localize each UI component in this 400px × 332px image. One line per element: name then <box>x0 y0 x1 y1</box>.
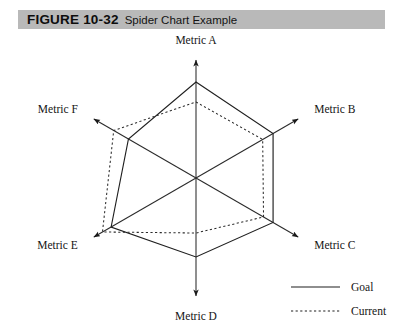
figure-title-label: Spider Chart Example <box>125 14 238 26</box>
spider-chart-svg: Metric AMetric BMetric CMetric DMetric E… <box>0 30 400 332</box>
axes-group <box>94 60 298 296</box>
legend-label-current: Current <box>351 305 387 317</box>
axis-label-metric-a: Metric A <box>175 34 217 46</box>
axis-spoke-metric-b <box>196 119 298 178</box>
axis-spoke-metric-f <box>94 119 196 178</box>
axis-spoke-metric-c <box>196 178 298 237</box>
axis-label-metric-e: Metric E <box>37 239 78 251</box>
spider-chart: Metric AMetric BMetric CMetric DMetric E… <box>0 30 400 332</box>
series-polygon-current <box>102 102 263 233</box>
axis-label-metric-b: Metric B <box>314 103 356 115</box>
legend-label-goal: Goal <box>351 281 373 293</box>
axis-label-metric-d: Metric D <box>175 310 217 322</box>
figure-number-label: FIGURE 10-32 <box>27 12 119 27</box>
axis-label-metric-c: Metric C <box>314 239 356 251</box>
axis-label-metric-f: Metric F <box>38 103 78 115</box>
chart-legend: GoalCurrent <box>291 281 387 317</box>
axis-spoke-metric-e <box>94 178 196 237</box>
figure-page: FIGURE 10-32 Spider Chart Example Metric… <box>0 0 400 332</box>
series-polygon-goal <box>111 82 273 257</box>
figure-caption-band: FIGURE 10-32 Spider Chart Example <box>18 10 385 29</box>
